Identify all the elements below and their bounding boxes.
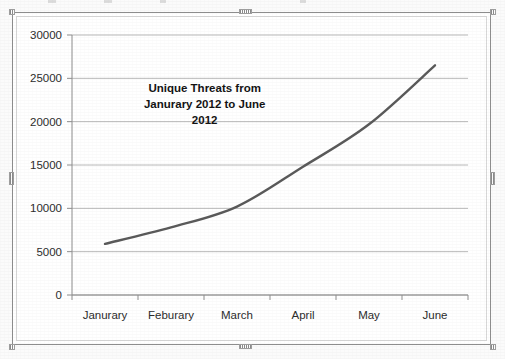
x-tick-label-feburary: Feburary <box>148 309 194 321</box>
chart-title-line-3: 2012 <box>192 114 218 126</box>
scanned-page-background: 050001000015000200002500030000 JanuraryF… <box>0 0 505 359</box>
x-axis-tick-labels: JanuraryFeburaryMarchAprilMayJune <box>83 309 448 321</box>
y-tick-label-25000: 25000 <box>30 72 62 84</box>
x-tick-label-may: May <box>358 309 380 321</box>
y-tick-label-10000: 10000 <box>30 202 62 214</box>
cropped-text-remnant <box>0 0 505 7</box>
chart-title-line-1: Unique Threats from <box>148 82 260 94</box>
y-tick-label-30000: 30000 <box>30 29 62 41</box>
x-tick-marks-group <box>72 295 468 300</box>
y-axis-tick-labels: 050001000015000200002500030000 <box>30 29 62 301</box>
y-tick-label-5000: 5000 <box>36 246 62 258</box>
y-tick-marks-group <box>67 35 72 295</box>
x-tick-label-janurary: Janurary <box>83 309 128 321</box>
gridlines-group <box>72 35 468 295</box>
x-tick-label-april: April <box>291 309 314 321</box>
line-chart[interactable]: 050001000015000200002500030000 JanuraryF… <box>12 12 491 345</box>
x-tick-label-march: March <box>221 309 253 321</box>
y-tick-label-15000: 15000 <box>30 159 62 171</box>
y-tick-label-0: 0 <box>56 289 62 301</box>
y-tick-label-20000: 20000 <box>30 116 62 128</box>
chart-title-line-2: Janurary 2012 to June <box>144 98 265 110</box>
chart-title: Unique Threats fromJanurary 2012 to June… <box>144 82 265 126</box>
x-tick-label-june: June <box>423 309 448 321</box>
chart-canvas: 050001000015000200002500030000 JanuraryF… <box>12 12 491 345</box>
